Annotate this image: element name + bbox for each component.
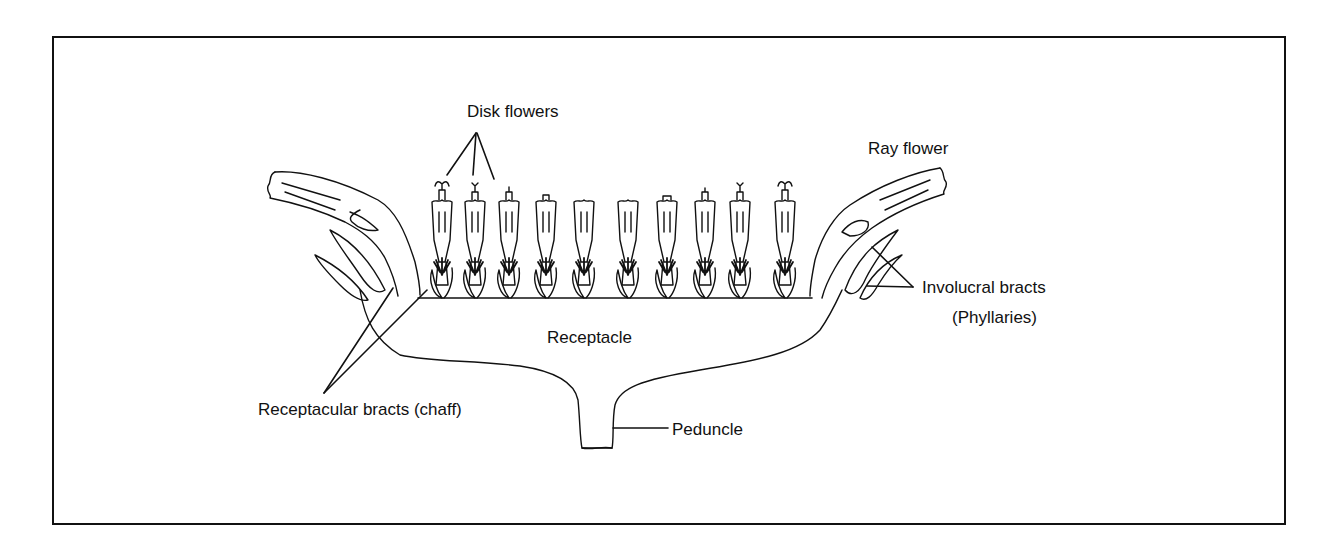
disk-flower — [431, 182, 453, 298]
ray-flower-left — [268, 172, 420, 296]
disk-flowers — [431, 182, 796, 298]
leader-involucral-bract-2 — [867, 286, 913, 287]
disk-flower — [694, 188, 716, 298]
involucral-bracts-right — [845, 230, 902, 299]
flower-head-illustration — [0, 0, 1342, 558]
label-peduncle: Peduncle — [672, 421, 743, 438]
leader-involucral-bract-1 — [872, 247, 913, 287]
disk-flower — [573, 200, 595, 298]
disk-flower — [535, 195, 557, 298]
involucral-bracts-left — [315, 230, 385, 300]
leader-lines — [324, 133, 913, 428]
disk-flower — [656, 196, 678, 298]
disk-flower — [617, 200, 639, 298]
label-disk-flowers: Disk flowers — [467, 103, 559, 120]
disk-flower — [498, 187, 520, 298]
leader-receptacular-bract-2 — [324, 290, 427, 393]
disk-flower — [774, 182, 796, 298]
label-receptacle: Receptacle — [547, 329, 632, 346]
leader-disk-flowers-3 — [477, 133, 494, 179]
label-ray-flower: Ray flower — [868, 140, 948, 157]
leader-disk-flowers-1 — [447, 133, 476, 175]
label-involucral-bracts: Involucral bracts — [922, 279, 1046, 296]
disk-flower — [464, 183, 486, 298]
label-phyllaries: (Phyllaries) — [952, 309, 1037, 326]
label-receptacular-bracts: Receptacular bracts (chaff) — [258, 401, 462, 418]
receptacle-outline — [360, 290, 842, 449]
leader-disk-flowers-2 — [473, 133, 476, 175]
disk-flower — [729, 183, 751, 298]
